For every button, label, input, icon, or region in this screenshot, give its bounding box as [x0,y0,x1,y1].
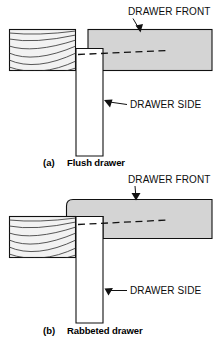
drawer-side-panel [76,49,103,157]
drawer-front-panel [88,30,212,71]
cabinet-side-block [9,217,76,262]
label-drawer-side: DRAWER SIDE [130,99,202,110]
caption-index-a: (a) [43,157,55,168]
caption-label-a: Flush drawer [67,157,125,168]
label-drawer-front: DRAWER FRONT [128,6,211,17]
caption-label-b: Rabbeted drawer [67,325,143,336]
leader-drawer-side [105,288,128,296]
label-drawer-front: DRAWER FRONT [128,174,211,185]
leader-drawer-front [132,186,141,201]
caption-index-b: (b) [43,325,55,336]
cabinet-side-block [9,30,76,75]
diagram-canvas: DRAWER FRONT DRAWER SIDE (a) Flush drawe… [0,0,222,340]
drawer-side-panel [76,217,103,324]
label-drawer-side: DRAWER SIDE [130,285,202,296]
panel-flush-drawer: DRAWER FRONT DRAWER SIDE (a) Flush drawe… [9,6,212,168]
drawer-joint-figure: DRAWER FRONT DRAWER SIDE (a) Flush drawe… [0,0,222,340]
leader-drawer-side [104,100,127,108]
panel-rabbeted-drawer: DRAWER FRONT DRAWER SIDE (b) Rabbeted dr… [9,174,212,336]
